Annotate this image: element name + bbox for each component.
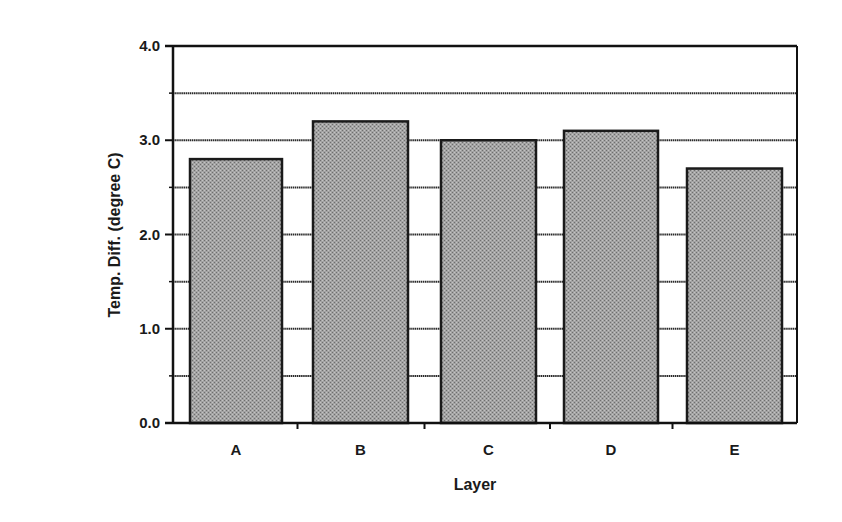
bar-b xyxy=(313,121,408,423)
bars xyxy=(190,121,782,423)
x-category-label: E xyxy=(729,441,739,458)
y-axis-title: Temp. Diff. (degree C) xyxy=(106,152,123,317)
y-axis-ticks: 0.01.02.03.04.0 xyxy=(139,37,173,431)
x-category-label: C xyxy=(483,441,494,458)
bar-e xyxy=(687,169,782,423)
bar-c xyxy=(441,140,536,423)
x-category-label: B xyxy=(355,441,366,458)
y-tick-label: 2.0 xyxy=(139,226,160,243)
bar-a xyxy=(190,159,282,423)
y-tick-label: 0.0 xyxy=(139,414,160,431)
y-tick-label: 3.0 xyxy=(139,131,160,148)
bar-d xyxy=(564,131,658,423)
y-tick-label: 1.0 xyxy=(139,320,160,337)
x-category-label: D xyxy=(606,441,617,458)
x-axis-ticks: ABCDE xyxy=(231,423,740,458)
x-axis-title: Layer xyxy=(454,476,497,493)
y-tick-label: 4.0 xyxy=(139,37,160,54)
bar-chart: 0.01.02.03.04.0 ABCDE Temp. Diff. (degre… xyxy=(0,0,842,522)
x-category-label: A xyxy=(231,441,242,458)
